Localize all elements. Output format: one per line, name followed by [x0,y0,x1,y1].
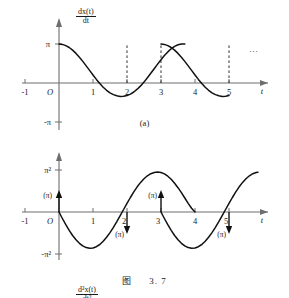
impulse-label-b-t2: (π) [115,230,124,239]
figure-3-7: -1 O 1 2 3 4 5 t π -π dx(t) dt … (a) [0,0,289,298]
impulse-label-b-t5: (π) [217,230,226,239]
subcaption-a: (a) [0,118,289,128]
xtick-label-a-4: 4 [193,87,198,97]
xtick-label-a-1: 1 [91,87,95,97]
formula-a-denominator: dt [76,17,96,25]
ellipsis-a: … [249,44,259,54]
y-axis-formula-b: d²x(t) dt² [76,286,98,298]
curve-a-segment-1 [59,44,185,96]
y-axis-arrow-a [56,18,62,27]
xtick-label-b-5: 5 [224,216,228,226]
y-axis-formula-a: dx(t) dt [76,8,96,26]
xtick-label-b--1: -1 [21,216,28,226]
impulse-arrowhead-b-t3 [158,190,164,198]
y-axis-arrow-b [56,152,62,161]
impulse-label-b-t3: (π) [148,191,157,200]
xtick-label-a-5: 5 [227,87,231,97]
chart-panel-a: -1 O 1 2 3 4 5 t π -π dx(t) dt … (a) [0,0,289,140]
xtick-label-a-3: 3 [159,87,163,97]
figure-caption-number: 3. 7 [149,276,167,286]
origin-label-a: O [47,87,53,97]
ytick-label-a-pi: π [46,39,51,49]
ytick-label-b-pi2: π² [44,165,51,175]
xtick-label-b-2: 2 [122,216,126,226]
chart-panel-b: -1 O 1 2 3 4 5 t π² (π) -π² (π) (π) (π) … [0,140,289,270]
xtick-label-a--1: -1 [21,87,28,97]
ytick-label-b-pi-impulse: (π) [43,191,52,200]
impulse-arrowhead-b-t0 [56,190,62,198]
ytick-label-b-neg-pi2: -π² [41,249,51,259]
xtick-label-b-3: 3 [156,216,160,226]
xtick-label-b-4: 4 [193,216,198,226]
x-axis-label-b: t [261,215,264,225]
chart-b-svg: -1 O 1 2 3 4 5 t π² (π) -π² (π) (π) (π) [0,140,289,270]
figure-caption-label: 图 [122,276,131,286]
x-axis-label-a: t [261,86,264,96]
origin-label-b: O [47,216,53,226]
impulse-arrowhead-b-t2 [124,226,130,234]
impulse-arrowhead-b-t5 [226,226,232,234]
figure-caption: 图 3. 7 [0,274,289,287]
xtick-label-b-1: 1 [91,216,95,226]
xtick-label-a-2: 2 [125,87,129,97]
